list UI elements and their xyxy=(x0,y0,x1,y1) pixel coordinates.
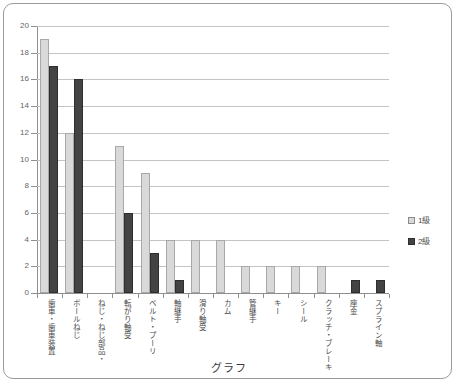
x-axis-tick-mark xyxy=(37,294,38,298)
y-axis-tick-mark xyxy=(31,293,37,294)
bar-group[interactable] xyxy=(62,26,87,293)
bar-2級[interactable] xyxy=(351,280,360,293)
bar-1級[interactable] xyxy=(65,133,74,293)
bar-group[interactable] xyxy=(314,26,339,293)
y-axis-tick-label: 0 xyxy=(5,289,29,297)
y-axis-tick-label: 2 xyxy=(5,262,29,270)
y-axis-tick-mark xyxy=(31,186,37,187)
chart-frame: 20181614121086420 歯車・歯車装置ボールねじねじ・ねじ部品・転が… xyxy=(3,3,452,379)
legend-label: 1級 xyxy=(418,217,430,225)
legend-label: 2級 xyxy=(418,238,430,246)
x-axis-tick-label: 転がり軸受 xyxy=(120,299,131,339)
x-axis-tick-mark xyxy=(188,294,189,298)
x-axis-tick-mark xyxy=(163,294,164,298)
bar-group[interactable] xyxy=(263,26,288,293)
y-axis-tick-label: 8 xyxy=(5,182,29,190)
x-axis-tick-label: カム xyxy=(221,299,232,315)
x-axis-tick-mark xyxy=(238,294,239,298)
bar-1級[interactable] xyxy=(291,266,300,293)
bar-group[interactable] xyxy=(138,26,163,293)
x-axis-tick-label: ねじ・ねじ部品・ xyxy=(95,299,106,363)
bar-1級[interactable] xyxy=(191,240,200,293)
x-axis-tick-mark xyxy=(263,294,264,298)
bar-group[interactable] xyxy=(339,26,364,293)
bar-2級[interactable] xyxy=(74,79,83,293)
y-axis-tick-mark xyxy=(31,106,37,107)
x-axis-tick-label: 歯車・歯車装置 xyxy=(45,299,56,355)
chart-legend: 1級2級 xyxy=(408,216,454,258)
x-axis-tick-mark xyxy=(288,294,289,298)
bar-group[interactable] xyxy=(364,26,389,293)
x-axis-tick-mark xyxy=(87,294,88,298)
bar-1級[interactable] xyxy=(266,266,275,293)
x-axis-tick-mark xyxy=(138,294,139,298)
x-axis-tick-label: 座金 xyxy=(346,299,357,315)
x-axis-tick-mark xyxy=(112,294,113,298)
y-axis-tick-label: 6 xyxy=(5,209,29,217)
x-axis-tick-mark xyxy=(389,294,390,298)
x-axis-tick-label: ベルト・プーリ xyxy=(145,299,156,355)
y-axis-tick-mark xyxy=(31,79,37,80)
x-axis-tick-label: 滑り軸受 xyxy=(195,299,206,331)
x-axis-tick-label: シール xyxy=(296,299,307,323)
bar-1級[interactable] xyxy=(40,39,49,293)
y-axis-tick-label: 14 xyxy=(5,102,29,110)
x-axis-tick-mark xyxy=(339,294,340,298)
y-axis-tick-mark xyxy=(31,133,37,134)
bar-1級[interactable] xyxy=(115,146,124,293)
bar-1級[interactable] xyxy=(241,266,250,293)
y-axis-tick-label: 16 xyxy=(5,75,29,83)
x-axis-tick-mark xyxy=(62,294,63,298)
y-axis-tick-mark xyxy=(31,240,37,241)
bar-1級[interactable] xyxy=(166,240,175,293)
y-axis-tick-mark xyxy=(31,213,37,214)
x-axis-tick-label: 軸継手 xyxy=(170,299,181,323)
y-axis-tick-label: 4 xyxy=(5,236,29,244)
bar-1級[interactable] xyxy=(317,266,326,293)
bar-group[interactable] xyxy=(87,26,112,293)
y-axis-tick-label: 20 xyxy=(5,22,29,30)
bar-2級[interactable] xyxy=(124,213,133,293)
y-axis-tick-label: 18 xyxy=(5,49,29,57)
x-axis-tick-label: スプライン軸 xyxy=(371,299,382,347)
bar-group[interactable] xyxy=(37,26,62,293)
x-axis-tick-mark xyxy=(364,294,365,298)
legend-item[interactable]: 1級 xyxy=(408,216,454,225)
plot-area xyxy=(37,26,389,293)
x-axis-tick-label: ボールねじ xyxy=(70,299,81,339)
bar-group[interactable] xyxy=(163,26,188,293)
x-axis-tick-mark xyxy=(213,294,214,298)
x-axis-tick-labels: 歯車・歯車装置ボールねじねじ・ねじ部品・転がり軸受ベルト・プーリ軸継手滑り軸受カ… xyxy=(37,299,397,357)
x-axis-tick-label: キー xyxy=(271,299,282,315)
legend-swatch-icon xyxy=(408,238,415,245)
legend-swatch-icon xyxy=(408,217,415,224)
bar-group[interactable] xyxy=(288,26,313,293)
y-axis-tick-mark xyxy=(31,53,37,54)
bar-1級[interactable] xyxy=(216,240,225,293)
legend-item[interactable]: 2級 xyxy=(408,237,454,246)
x-axis-tick-mark xyxy=(314,294,315,298)
y-axis-tick-mark xyxy=(31,26,37,27)
y-axis-tick-labels: 20181614121086420 xyxy=(4,4,29,384)
y-axis-tick-mark xyxy=(31,266,37,267)
y-axis-tick-label: 12 xyxy=(5,129,29,137)
bar-group[interactable] xyxy=(213,26,238,293)
bar-1級[interactable] xyxy=(141,173,150,293)
bar-2級[interactable] xyxy=(175,280,184,293)
bar-2級[interactable] xyxy=(376,280,385,293)
bar-2級[interactable] xyxy=(150,253,159,293)
bar-group[interactable] xyxy=(112,26,137,293)
x-axis-tick-label: 管継手 xyxy=(246,299,257,323)
bar-2級[interactable] xyxy=(49,66,58,293)
y-axis-tick-mark xyxy=(31,160,37,161)
bar-group[interactable] xyxy=(238,26,263,293)
chart-title: グラフ xyxy=(4,359,453,375)
y-axis-tick-label: 10 xyxy=(5,156,29,164)
bar-group[interactable] xyxy=(188,26,213,293)
